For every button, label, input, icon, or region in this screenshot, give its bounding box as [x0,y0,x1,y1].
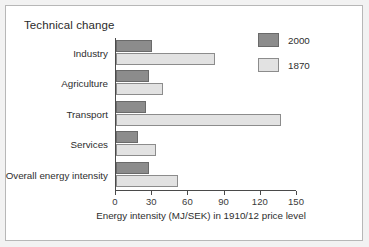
x-tick-mark [115,191,116,195]
category-label: Industry [73,48,108,59]
bar-1870[interactable] [116,144,156,156]
legend-label: 1870 [288,60,310,71]
x-tick-label: 120 [252,196,268,207]
bar-1870[interactable] [116,83,163,95]
chart-legend: 20001870 [258,30,344,80]
x-tick-label: 150 [288,196,304,207]
x-axis-line [115,190,296,191]
legend-item[interactable]: 1870 [258,55,344,75]
x-tick-mark [151,191,152,195]
x-tick-mark [296,191,297,195]
page-title: Technical change [24,19,114,31]
bar-2000[interactable] [116,131,138,143]
category-label: Agriculture [61,78,108,89]
legend-swatch-icon [258,58,279,72]
bar-1870[interactable] [116,114,281,126]
bar-2000[interactable] [116,40,152,52]
legend-swatch-icon [258,33,279,47]
x-tick-mark [187,191,188,195]
x-tick-mark [260,191,261,195]
bar-1870[interactable] [116,175,178,187]
bar-2000[interactable] [116,70,149,82]
category-label: Overall energy intensity [6,170,108,181]
x-tick-mark [224,191,225,195]
bar-1870[interactable] [116,53,215,65]
x-tick-label: 30 [146,196,157,207]
figure-container: Technical change IndustryAgricultureTran… [0,0,369,247]
category-label: Transport [66,109,108,120]
legend-label: 2000 [288,35,310,46]
x-axis-title: Energy intensity (MJ/SEK) in 1910/12 pri… [6,210,362,221]
category-axis-labels: IndustryAgricultureTransportServicesOver… [6,38,111,190]
category-label: Services [70,139,108,150]
x-tick-label: 0 [112,196,117,207]
bar-2000[interactable] [116,162,149,174]
chart-frame: Technical change IndustryAgricultureTran… [5,5,363,241]
x-tick-label: 60 [182,196,193,207]
bar-2000[interactable] [116,101,146,113]
legend-item[interactable]: 2000 [258,30,344,50]
x-tick-label: 90 [218,196,229,207]
